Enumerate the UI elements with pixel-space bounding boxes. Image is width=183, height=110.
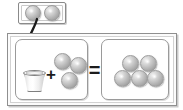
sum-panel[interactable]: 5: [101, 39, 169, 100]
ball-icon: [61, 72, 78, 89]
addend-ball-count: 3: [16, 40, 17, 41]
worksheet-canvas: 2 +: [0, 0, 183, 110]
ball-icon: [70, 57, 87, 74]
equation-inner: + 3 = 5: [10, 36, 174, 103]
sum-ball-count: 5: [102, 40, 103, 41]
equation-frame: + 3 = 5: [7, 33, 177, 106]
addend-panel[interactable]: + 3: [15, 39, 88, 100]
addend-ball-group: [54, 53, 88, 89]
cup-icon: [23, 67, 47, 93]
ball-icon: [147, 70, 164, 87]
ball-icon: [54, 53, 71, 70]
ball-icon: [114, 70, 131, 87]
hidden-quantity-count: 2: [19, 3, 20, 4]
equals-operator: =: [88, 60, 101, 80]
sum-ball-group: [114, 55, 161, 88]
ball-icon: [131, 70, 148, 87]
